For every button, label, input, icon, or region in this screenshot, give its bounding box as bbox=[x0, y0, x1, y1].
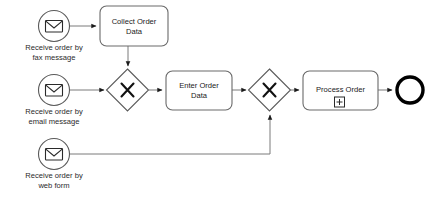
plus-box-icon bbox=[335, 97, 345, 107]
end-event[interactable] bbox=[397, 77, 423, 103]
envelope-icon bbox=[46, 21, 63, 33]
start-event-web-form-label: Receive order by web form bbox=[0, 171, 109, 191]
start-event-email-label: Receive order by email message bbox=[0, 107, 109, 127]
start-event-fax[interactable] bbox=[39, 11, 70, 42]
gateway-exclusive-merge[interactable] bbox=[107, 69, 149, 111]
envelope-icon bbox=[46, 85, 63, 97]
start-event-web-form[interactable] bbox=[39, 139, 70, 170]
task-enter-order-data-label: Enter Order Data bbox=[166, 81, 232, 100]
start-event-fax-label: Receive order by fax message bbox=[0, 43, 109, 63]
start-event-email[interactable] bbox=[39, 75, 70, 106]
envelope-icon bbox=[46, 149, 63, 161]
task-collect-order-data-label: Collect Order Data bbox=[100, 17, 168, 36]
gateway-exclusive-join[interactable] bbox=[249, 69, 291, 111]
task-process-order-label: Process Order bbox=[303, 85, 378, 95]
